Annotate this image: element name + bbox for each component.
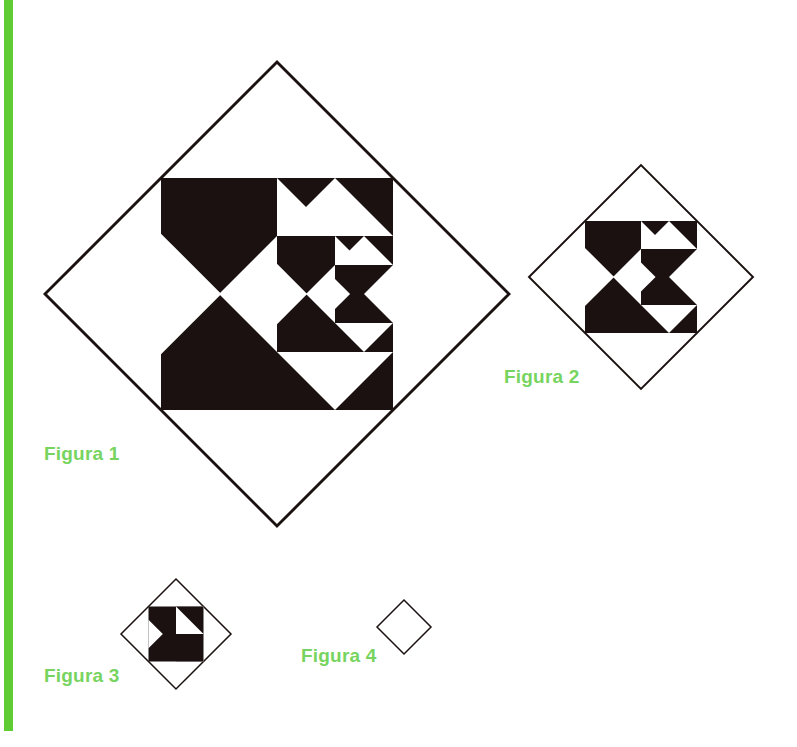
figure-2-label: Figura 2 [504,366,580,388]
figure-3-diag-bottom-fill [176,634,204,662]
figure-3-label: Figura 3 [44,665,120,687]
figure-1-label: Figura 1 [44,443,120,465]
page-canvas: Figura 1 Figura 2 Figura 3 Figura 4 [0,0,797,747]
figure-1-graphic [0,0,797,747]
figure-4-diamond-outline [377,600,431,654]
figure-4-label: Figura 4 [301,645,377,667]
